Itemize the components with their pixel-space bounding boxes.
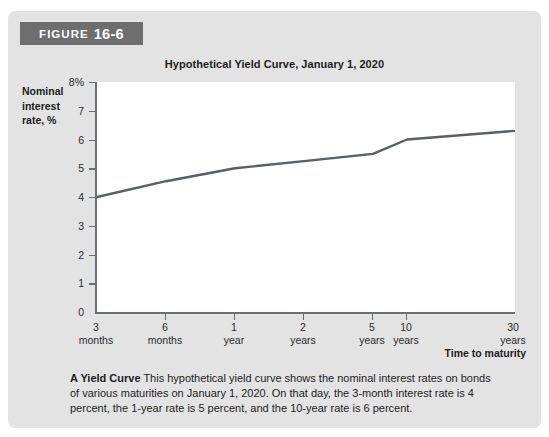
y-tick-3 xyxy=(89,226,96,227)
x-tick-1-year xyxy=(234,313,235,320)
x-tick-label-6-months-value: 6 xyxy=(162,321,168,333)
x-tick-3-months xyxy=(165,313,166,320)
y-tick-label-8: 8% xyxy=(44,76,84,88)
figure-badge-number: 16-6 xyxy=(94,26,124,42)
y-tick-label-3: 3 xyxy=(44,220,84,232)
y-tick-label-6: 6 xyxy=(44,134,84,146)
x-tick-5-years xyxy=(372,313,373,320)
y-tick-5 xyxy=(89,168,96,169)
y-tick-label-5: 5 xyxy=(44,162,84,174)
figure-caption: A Yield Curve This hypothetical yield cu… xyxy=(70,371,500,417)
x-tick-label-30-years: 30 years xyxy=(480,321,546,346)
x-tick-label-10-years-unit: years xyxy=(373,334,439,347)
x-tick-label-2-years: 2 years xyxy=(270,321,336,346)
x-tick-label-2-years-value: 2 xyxy=(300,321,306,333)
y-tick-4 xyxy=(89,197,96,198)
figure-caption-lead: A Yield Curve xyxy=(70,372,141,384)
y-tick-1 xyxy=(89,283,96,284)
y-tick-label-1: 1 xyxy=(44,277,84,289)
x-tick-label-6-months: 6 months xyxy=(132,321,198,346)
y-tick-label-0: 0 xyxy=(44,306,84,318)
y-tick-2 xyxy=(89,255,96,256)
x-axis-line xyxy=(95,312,515,314)
x-tick-label-3-months-unit: months xyxy=(63,334,129,347)
plot-area xyxy=(96,82,515,312)
x-tick-label-2-years-unit: years xyxy=(270,334,336,347)
y-tick-label-7: 7 xyxy=(44,105,84,117)
x-tick-label-3-months: 3 months xyxy=(63,321,129,346)
x-tick-label-1-year: 1 year xyxy=(201,321,267,346)
figure-number-badge: FIGURE 16-6 xyxy=(20,22,143,45)
x-tick-label-3-months-value: 3 xyxy=(93,321,99,333)
x-tick-label-6-months-unit: months xyxy=(132,334,198,347)
x-tick-label-1-year-value: 1 xyxy=(231,321,237,333)
x-axis-title: Time to maturity xyxy=(445,347,527,359)
x-tick-2-years xyxy=(303,313,304,320)
x-tick-label-1-year-unit: year xyxy=(201,334,267,347)
y-tick-7 xyxy=(89,111,96,112)
x-tick-label-10-years: 10 years xyxy=(373,321,439,346)
yield-curve-line xyxy=(97,131,514,197)
y-tick-label-2: 2 xyxy=(44,249,84,261)
x-tick-label-30-years-unit: years xyxy=(480,334,546,347)
y-tick-8 xyxy=(89,82,96,83)
figure-panel: FIGURE 16-6 Hypothetical Yield Curve, Ja… xyxy=(8,11,541,428)
x-tick-10-years xyxy=(406,313,407,320)
y-tick-label-4: 4 xyxy=(44,191,84,203)
x-tick-label-30-years-value: 30 xyxy=(507,321,519,333)
yield-curve-plot xyxy=(96,82,515,312)
figure-badge-word: FIGURE xyxy=(39,28,89,40)
y-tick-6 xyxy=(89,140,96,141)
chart-title: Hypothetical Yield Curve, January 1, 202… xyxy=(8,58,541,70)
x-tick-label-10-years-value: 10 xyxy=(400,321,412,333)
